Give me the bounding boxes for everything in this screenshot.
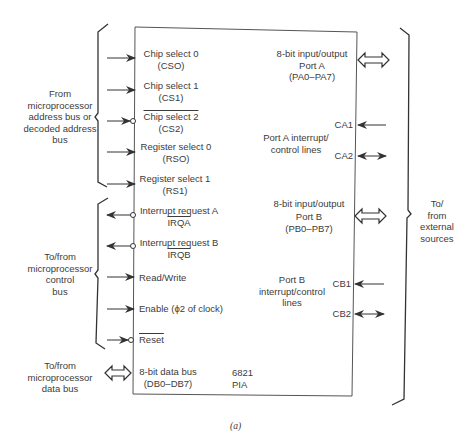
pin-label: Enable (ϕ2 of clock) <box>139 303 223 314</box>
label-line: microprocessor <box>20 372 100 384</box>
label-line: bus <box>20 286 100 298</box>
pin-label: Register select 1 <box>139 173 211 185</box>
pin-label: Register select 0 <box>140 141 212 153</box>
pin-ca1: CA1 <box>327 119 353 131</box>
pin-rs1: Register select 1 (RS1) <box>139 173 211 196</box>
label-line: lines <box>256 297 328 309</box>
label-line: Port B <box>267 211 351 223</box>
pin-cs2: Chip select 2 (CS2) <box>141 111 201 134</box>
pin-sub: (RS1) <box>139 185 211 197</box>
bubble-cs2 <box>131 119 136 124</box>
pin-cb2: CB2 <box>325 308 351 320</box>
external-group-label: To/ from external sources <box>412 198 462 244</box>
label-line: To/from <box>20 360 100 372</box>
port-a-ctrl-label: Port A interrupt/ control lines <box>256 132 336 155</box>
pin-reset: Reset <box>139 334 164 346</box>
chip-name-line: 6821 <box>232 367 253 379</box>
label-line: (PA0–PA7) <box>270 71 354 83</box>
pin-sub: (CSO) <box>141 60 201 72</box>
port-b-label: 8-bit input/output Port B (PB0–PB7) <box>267 198 351 235</box>
control-group-label: To/from microprocessor control bus <box>20 251 100 297</box>
label-line: Port A <box>270 60 354 72</box>
port-b-arrow <box>355 209 386 223</box>
caption-text: (a) <box>230 421 241 431</box>
bubble-irqa <box>131 213 136 218</box>
pin-enable: Enable (ϕ2 of clock) <box>139 303 223 315</box>
pin-label: Chip select 0 <box>141 48 201 60</box>
data-bus-arrow <box>105 366 131 380</box>
label-line: (PB0–PB7) <box>267 223 351 235</box>
pin-label: Chip select 1 <box>141 80 201 92</box>
pin-irqa: Interrupt request A IRQA <box>138 205 220 228</box>
pin-sub: IRQB <box>167 249 190 260</box>
pin-sub: (CS2) <box>141 123 201 135</box>
pin-cs0: Chip select 0 (CSO) <box>141 48 201 71</box>
pin-label: Interrupt request A <box>138 205 220 217</box>
pin-label: Interrupt request B <box>138 237 220 249</box>
pin-ca2: CA2 <box>327 150 353 162</box>
pin-label: CA1 <box>335 119 353 130</box>
pin-cb1: CB1 <box>325 278 351 290</box>
pin-sub: (DB0–DB7) <box>137 378 199 390</box>
figure-caption: (a) <box>230 421 241 433</box>
pin-label: CB2 <box>333 308 351 319</box>
pin-data-bus: 8-bit data bus (DB0–DB7) <box>137 366 199 389</box>
pin-label: Reset <box>139 334 164 345</box>
pin-label: CA2 <box>335 150 353 161</box>
pin-rw: Read/Write <box>139 272 186 284</box>
label-line: from <box>412 210 462 222</box>
bubble-reset <box>129 338 134 343</box>
bubble-irqb <box>131 244 136 249</box>
label-line: Port B <box>256 274 328 286</box>
pin-sub: (CS1) <box>141 92 201 104</box>
label-line: From <box>20 88 100 100</box>
label-line: 8-bit input/output <box>267 198 351 210</box>
label-line: control <box>20 274 100 286</box>
label-line: sources <box>412 233 462 245</box>
label-line: Port A interrupt/ <box>256 132 336 144</box>
pin-label: Read/Write <box>139 272 186 283</box>
pin-sub: (RSO) <box>140 153 212 165</box>
port-a-arrow <box>358 53 389 67</box>
pin-label: 8-bit data bus <box>137 366 199 378</box>
label-line: control lines <box>256 144 336 156</box>
label-line: bus <box>20 134 100 146</box>
brace-external <box>392 28 411 405</box>
pin-cs1: Chip select 1 (CS1) <box>141 80 201 103</box>
label-line: decoded address <box>20 123 100 135</box>
data-group-label: To/from microprocessor data bus <box>20 360 100 395</box>
label-line: address bus or <box>20 111 100 123</box>
label-line: microprocessor <box>20 263 100 275</box>
label-line: interrupt/control <box>256 286 328 298</box>
label-line: 8-bit input/output <box>270 48 354 60</box>
label-line: To/ <box>412 198 462 210</box>
label-line: To/from <box>20 251 100 263</box>
port-b-ctrl-label: Port B interrupt/control lines <box>256 274 328 309</box>
pin-irqb: Interrupt request B IRQB <box>138 237 220 260</box>
chip-name-line: PIA <box>232 379 253 391</box>
pin-sub: IRQA <box>167 217 190 228</box>
pin-rs0: Register select 0 (RSO) <box>140 141 212 164</box>
address-group-label: From microprocessor address bus or decod… <box>20 88 100 146</box>
pin-label: CB1 <box>333 278 351 289</box>
port-a-label: 8-bit input/output Port A (PA0–PA7) <box>270 48 354 83</box>
chip-name: 6821 PIA <box>232 367 253 390</box>
pin-label: Chip select 2 <box>141 111 201 123</box>
label-line: microprocessor <box>20 100 100 112</box>
label-line: external <box>412 221 462 233</box>
label-line: data bus <box>20 383 100 395</box>
